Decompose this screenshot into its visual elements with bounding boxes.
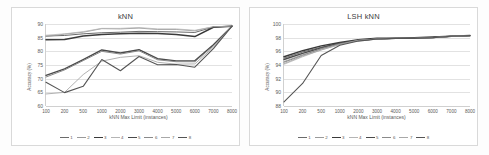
legend-label: 7 <box>172 135 174 140</box>
legend-swatch <box>77 137 86 138</box>
legend-label: 4 <box>359 135 361 140</box>
plot-frame: 6065707580859010020050010002000300040005… <box>45 24 232 106</box>
legend-label: 5 <box>138 135 140 140</box>
legend-swatch <box>332 137 341 138</box>
y-axis-title: Accuracy (%) <box>27 63 32 90</box>
series-line[interactable] <box>284 36 470 102</box>
chart-card-knn[interactable]: kNN Accuracy (%) 60657075808590100200500… <box>11 7 240 146</box>
legend-item[interactable]: 3 <box>332 135 345 140</box>
gridline <box>284 106 470 107</box>
chart-title: LSH kNN <box>250 12 477 21</box>
legend-swatch <box>349 137 358 138</box>
legend-swatch <box>382 137 391 138</box>
legend-label: 4 <box>121 135 123 140</box>
legend-item[interactable]: 1 <box>60 135 73 140</box>
y-axis-tick-label: 80 <box>37 48 43 54</box>
plot-frame: 8890929496981001002005001000200030004000… <box>283 24 470 106</box>
x-axis-title: kNN Max Limit (instances) <box>283 114 470 120</box>
legend-swatch <box>298 137 307 138</box>
legend-item[interactable]: 8 <box>416 135 429 140</box>
legend-item[interactable]: 2 <box>77 135 90 140</box>
y-axis-tick-label: 98 <box>275 35 281 41</box>
legend-label: 1 <box>70 135 72 140</box>
legend-swatch <box>128 137 137 138</box>
legend-label: 7 <box>410 135 412 140</box>
legend-item[interactable]: 2 <box>315 135 328 140</box>
legend-item[interactable]: 5 <box>128 135 141 140</box>
y-axis-tick-label: 90 <box>37 21 43 27</box>
legend-label: 6 <box>393 135 395 140</box>
gridline <box>46 106 232 107</box>
legend-lsh-knn: 12345678 <box>250 135 477 140</box>
y-axis-tick-label: 75 <box>37 62 43 68</box>
series-line[interactable] <box>46 26 232 94</box>
series-layer <box>46 24 232 106</box>
y-axis-tick-label: 90 <box>275 89 281 95</box>
plot-area-lsh-knn: 8890929496981001002005001000200030004000… <box>283 24 470 106</box>
series-line[interactable] <box>46 26 232 92</box>
legend-swatch <box>315 137 324 138</box>
chart-card-lsh-knn[interactable]: LSH kNN Accuracy (%) 8890929496981001002… <box>249 7 478 146</box>
legend-label: 1 <box>308 135 310 140</box>
y-axis-tick-label: 70 <box>37 76 43 82</box>
legend-label: 5 <box>376 135 378 140</box>
legend-swatch <box>416 137 425 138</box>
legend-item[interactable]: 7 <box>399 135 412 140</box>
legend-item[interactable]: 5 <box>366 135 379 140</box>
legend-swatch <box>366 137 375 138</box>
y-axis-title: Accuracy (%) <box>265 63 270 90</box>
spreadsheet-canvas: kNN Accuracy (%) 60657075808590100200500… <box>0 0 489 155</box>
y-axis-tick-label: 94 <box>275 62 281 68</box>
legend-item[interactable]: 4 <box>349 135 362 140</box>
legend-knn: 12345678 <box>12 135 239 140</box>
legend-swatch <box>60 137 69 138</box>
y-axis-tick-label: 92 <box>275 76 281 82</box>
chart-title: kNN <box>12 12 239 21</box>
y-axis-tick-label: 85 <box>37 35 43 41</box>
legend-item[interactable]: 6 <box>144 135 157 140</box>
legend-label: 8 <box>427 135 429 140</box>
legend-item[interactable]: 8 <box>178 135 191 140</box>
legend-swatch <box>111 137 120 138</box>
legend-swatch <box>161 137 170 138</box>
legend-item[interactable]: 1 <box>298 135 311 140</box>
legend-item[interactable]: 3 <box>94 135 107 140</box>
y-axis-tick-label: 96 <box>275 48 281 54</box>
plot-area-knn: 6065707580859010020050010002000300040005… <box>45 24 232 106</box>
legend-label: 3 <box>342 135 344 140</box>
legend-label: 3 <box>104 135 106 140</box>
y-axis-tick-label: 65 <box>37 89 43 95</box>
legend-item[interactable]: 6 <box>382 135 395 140</box>
legend-item[interactable]: 7 <box>161 135 174 140</box>
legend-label: 6 <box>155 135 157 140</box>
x-axis-title: kNN Max Limit (instances) <box>45 114 232 120</box>
legend-swatch <box>144 137 153 138</box>
legend-label: 2 <box>325 135 327 140</box>
legend-swatch <box>178 137 187 138</box>
legend-label: 2 <box>87 135 89 140</box>
legend-item[interactable]: 4 <box>111 135 124 140</box>
legend-swatch <box>94 137 103 138</box>
legend-label: 8 <box>189 135 191 140</box>
y-axis-tick-label: 100 <box>273 21 281 27</box>
legend-swatch <box>399 137 408 138</box>
series-layer <box>284 24 470 106</box>
